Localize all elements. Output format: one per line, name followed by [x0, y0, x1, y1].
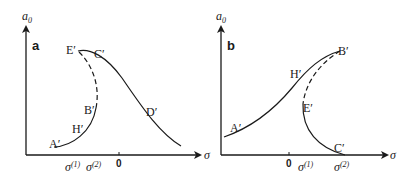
point-label-d: D′ [146, 105, 158, 119]
panel-a: a0 σ a A′ H′ B′ E′ C′ D′ σ(1) σ(2) 0 [22, 9, 211, 174]
point-label-e: E′ [66, 43, 76, 57]
point-label-b: B′ [338, 44, 349, 58]
x-axis-label: σ [204, 148, 211, 162]
panel-b: a0 σ b A′ H′ B′ E′ C′ σ(1) σ(2) 0 [216, 9, 397, 174]
zero-tick-label: 0 [116, 158, 122, 169]
zero-tick-label: 0 [286, 158, 292, 169]
sigma2-label: σ(2) [334, 160, 350, 174]
y-axis-label: a0 [22, 9, 32, 25]
x-axis-label: σ [390, 148, 397, 162]
y-axis-label: a0 [216, 9, 226, 25]
curve-upper-branch [224, 51, 340, 137]
sigma1-label: σ(1) [65, 160, 81, 174]
point-label-c: C′ [334, 141, 345, 155]
sigma1-label: σ(1) [298, 160, 314, 174]
point-label-h: H′ [72, 122, 84, 136]
point-label-h: H′ [290, 67, 302, 81]
frequency-response-diagram: a0 σ a A′ H′ B′ E′ C′ D′ σ(1) σ(2) 0 a0 … [0, 0, 417, 183]
sigma2-label: σ(2) [86, 160, 102, 174]
point-label-a: A′ [230, 121, 242, 135]
panel-label: b [227, 38, 235, 53]
point-label-b: B′ [84, 103, 95, 117]
curve-upper-branch [78, 50, 181, 146]
panel-label: a [32, 38, 40, 53]
point-label-a: A′ [49, 137, 61, 151]
point-label-e: E′ [303, 101, 313, 115]
point-label-c: C′ [94, 47, 105, 61]
